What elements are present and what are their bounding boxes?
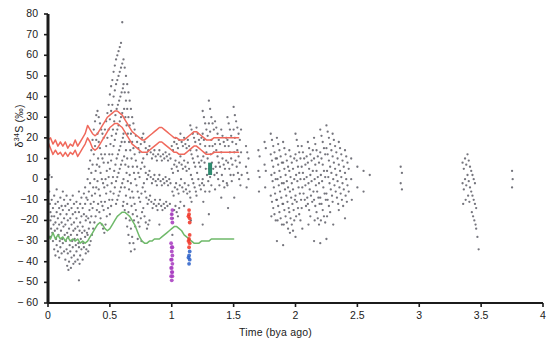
y-tick-label: 0 bbox=[2, 172, 38, 184]
y-tick-label: − 60 bbox=[2, 296, 38, 308]
x-tick-label: 2.5 bbox=[337, 309, 377, 321]
y-tick-label: 70 bbox=[2, 28, 38, 40]
x-tick-label: 1.5 bbox=[214, 309, 254, 321]
chart-figure: δ34S (‰) Time (bya ago) − 60− 50− 40− 30… bbox=[0, 0, 551, 347]
y-tick-label: 20 bbox=[2, 131, 38, 143]
y-tick-label: −10 bbox=[2, 193, 38, 205]
y-tick-label: 50 bbox=[2, 69, 38, 81]
x-axis-label: Time (bya ago) bbox=[0, 326, 551, 338]
y-tick-label: 60 bbox=[2, 48, 38, 60]
y-tick-label: −20 bbox=[2, 213, 38, 225]
y-tick-label: 30 bbox=[2, 110, 38, 122]
x-tick-label: 1 bbox=[152, 309, 192, 321]
x-tick-label: 2 bbox=[276, 309, 316, 321]
highlighted-markers-layer bbox=[169, 163, 212, 283]
chart-canvas bbox=[0, 0, 551, 347]
y-tick-label: − 40 bbox=[2, 255, 38, 267]
x-tick-label: 4 bbox=[523, 309, 551, 321]
y-tick-label: 80 bbox=[2, 7, 38, 19]
x-tick-label: 3 bbox=[399, 309, 439, 321]
scatter-points-layer bbox=[48, 21, 514, 281]
x-tick-label: 3.5 bbox=[461, 309, 501, 321]
y-tick-label: − 30 bbox=[2, 234, 38, 246]
y-tick-label: 10 bbox=[2, 152, 38, 164]
x-tick-label: 0.5 bbox=[90, 309, 130, 321]
x-tick-label: 0 bbox=[28, 309, 68, 321]
y-tick-label: 40 bbox=[2, 90, 38, 102]
y-tick-label: − 50 bbox=[2, 275, 38, 287]
